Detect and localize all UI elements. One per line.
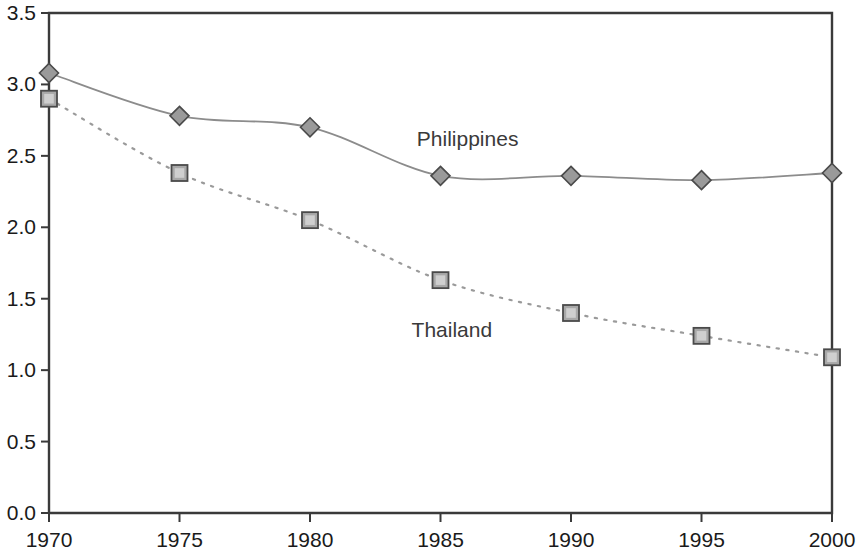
y-axis-tick-label: 1.0 — [7, 359, 36, 380]
series-label-philippines: Philippines — [417, 128, 519, 149]
data-point-thailand-1975 — [172, 165, 188, 181]
x-axis-tick-label: 1995 — [652, 529, 752, 550]
y-axis-tick-label: 1.5 — [7, 288, 36, 309]
data-point-philippines-1995 — [692, 171, 711, 190]
y-axis-tick-label: 2.5 — [7, 145, 36, 166]
x-axis-tick-label: 1985 — [391, 529, 491, 550]
data-point-thailand-1995 — [694, 328, 710, 344]
x-axis-tick-label: 1975 — [130, 529, 230, 550]
data-point-thailand-1985 — [433, 272, 449, 288]
data-point-thailand-1970 — [41, 91, 57, 107]
data-point-philippines-1970 — [40, 64, 59, 83]
x-axis-tick-label: 1980 — [260, 529, 360, 550]
series-label-thailand: Thailand — [412, 319, 493, 340]
plot-frame — [49, 13, 832, 513]
y-axis-tick-label: 2.0 — [7, 216, 36, 237]
y-axis-tick-label: 3.0 — [7, 73, 36, 94]
y-axis-tick-label: 0.5 — [7, 431, 36, 452]
data-point-thailand-2000 — [824, 349, 840, 365]
data-point-thailand-1980 — [302, 212, 318, 228]
data-point-philippines-1975 — [170, 106, 189, 125]
y-axis-tick-label: 3.5 — [7, 2, 36, 23]
y-axis-tick-label: 0.0 — [7, 502, 36, 523]
data-point-philippines-1990 — [562, 166, 581, 185]
data-point-thailand-1990 — [563, 305, 579, 321]
x-axis-tick-label: 2000 — [782, 529, 860, 550]
data-point-philippines-1980 — [301, 118, 320, 137]
x-axis-tick-label: 1970 — [0, 529, 99, 550]
data-point-philippines-1985 — [431, 166, 450, 185]
x-axis-tick-label: 1990 — [521, 529, 621, 550]
data-point-philippines-2000 — [823, 164, 842, 183]
